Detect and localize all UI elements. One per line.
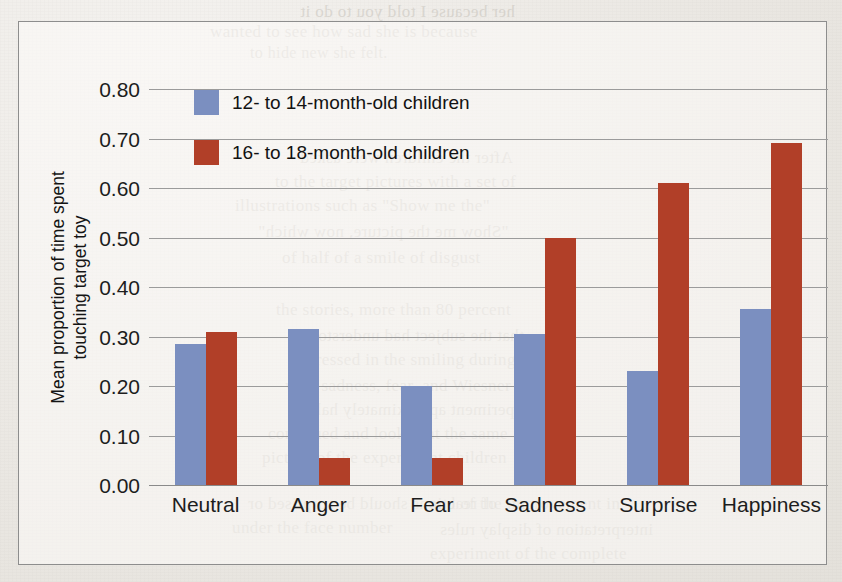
x-axis-tick-label: Neutral — [172, 494, 240, 515]
bar — [627, 371, 658, 485]
y-axis-tick-label: 0.30 — [99, 326, 140, 347]
bar — [401, 386, 432, 485]
y-axis-tick-label: 0.70 — [99, 128, 140, 149]
bar — [175, 344, 206, 485]
y-axis-tick-label: 0.20 — [99, 376, 140, 397]
legend-label-0: 12- to 14-month-old children — [232, 93, 470, 112]
bar — [432, 458, 463, 485]
y-axis-tick-label: 0.40 — [99, 277, 140, 298]
x-axis-tick-label: Anger — [291, 494, 347, 515]
bar — [658, 183, 689, 485]
bar — [771, 143, 802, 485]
x-axis-tick-label: Surprise — [619, 494, 697, 515]
x-axis-tick-label: Fear — [410, 494, 453, 515]
legend-swatch-blue — [194, 90, 219, 115]
bar-group: Sadness — [489, 89, 602, 485]
y-axis-tick-label: 0.00 — [99, 475, 140, 496]
legend-item-1: 16- to 18-month-old children — [194, 127, 470, 177]
bar — [514, 334, 545, 485]
x-axis-tick-label: Sadness — [504, 494, 586, 515]
bar — [288, 329, 319, 485]
y-axis-tick-label: 0.60 — [99, 178, 140, 199]
bleed-through-line: her because I told you to do it — [300, 2, 515, 22]
y-axis-tick-label: 0.10 — [99, 425, 140, 446]
bar-group: Surprise — [602, 89, 715, 485]
y-axis-tick-label: 0.80 — [99, 79, 140, 100]
bar — [545, 238, 576, 486]
legend-item-0: 12- to 14-month-old children — [194, 77, 470, 127]
bar — [319, 458, 350, 485]
bar-group: Happiness — [715, 89, 828, 485]
figure-frame: Mean proportion of time spent touching t… — [18, 21, 827, 565]
legend-swatch-red — [194, 140, 219, 165]
y-axis-title: Mean proportion of time spent touching t… — [43, 89, 95, 485]
y-axis-tick-label: 0.50 — [99, 227, 140, 248]
bar — [206, 332, 237, 485]
legend-label-1: 16- to 18-month-old children — [232, 143, 470, 162]
bar — [740, 309, 771, 485]
y-axis-title-line-2: touching target toy — [69, 171, 91, 404]
y-axis-title-line-1: Mean proportion of time spent — [47, 171, 69, 404]
x-axis-baseline — [149, 485, 828, 486]
scanned-page: her because I told you to do itwanted to… — [0, 0, 842, 582]
chart-legend: 12- to 14-month-old children 16- to 18-m… — [194, 77, 470, 177]
x-axis-tick-label: Happiness — [722, 494, 821, 515]
